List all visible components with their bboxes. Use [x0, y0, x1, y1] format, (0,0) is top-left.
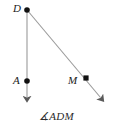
ray-dm-line: [28, 11, 101, 98]
point-label-d: D: [13, 3, 21, 14]
point-label-a: A: [13, 75, 20, 86]
point-a-dot: [24, 78, 30, 84]
point-d-dot: [24, 7, 30, 13]
angle-diagram-figure: D A M ∡ADM: [0, 0, 113, 130]
point-label-m: M: [68, 75, 77, 86]
figure-caption: ∡ADM: [0, 110, 113, 122]
point-m-dot: [83, 75, 88, 80]
